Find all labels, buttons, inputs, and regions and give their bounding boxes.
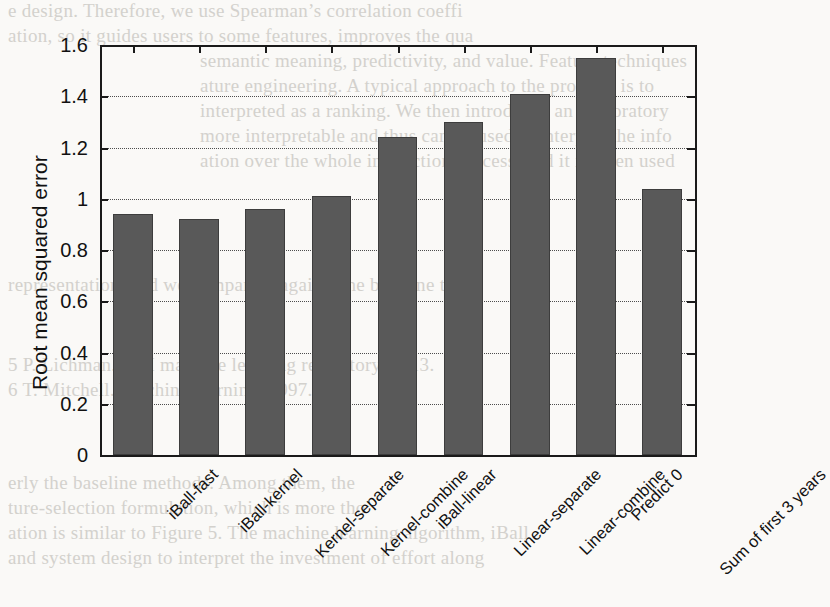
y-tick-mark	[100, 199, 108, 201]
x-tick-mark	[199, 45, 201, 53]
x-tick-mark	[133, 45, 135, 53]
y-tick-mark-right	[687, 353, 695, 355]
x-axis-line	[100, 455, 697, 457]
y-tick-mark-right	[687, 96, 695, 98]
bar[interactable]	[642, 189, 682, 456]
x-tick-mark	[464, 45, 466, 53]
y-tick-mark	[100, 250, 108, 252]
x-tick-mark	[398, 45, 400, 53]
bar[interactable]	[444, 122, 484, 455]
y-tick-mark-right	[687, 45, 695, 47]
y-tick-label: 0.6	[0, 290, 88, 313]
bar[interactable]	[179, 219, 219, 455]
x-tick-mark	[596, 45, 598, 53]
bar[interactable]	[510, 94, 550, 455]
y-tick-mark	[100, 45, 108, 47]
y-tick-label: 0	[0, 444, 88, 467]
y-tick-mark-right	[687, 404, 695, 406]
y-tick-label: 1.2	[0, 136, 88, 159]
y-tick-mark-right	[687, 250, 695, 252]
y-tick-mark	[100, 96, 108, 98]
x-tick-label: iBall-kernel	[235, 465, 306, 536]
y-tick-mark-right	[687, 199, 695, 201]
y-tick-mark-right	[687, 148, 695, 150]
bar[interactable]	[312, 196, 352, 455]
y-tick-mark	[100, 301, 108, 303]
y-tick-label: 0.8	[0, 239, 88, 262]
x-tick-label: iBall-fast	[164, 465, 222, 523]
x-tick-mark	[331, 45, 333, 53]
y-tick-label: 1.6	[0, 34, 88, 57]
y-tick-mark	[100, 148, 108, 150]
bar[interactable]	[378, 137, 418, 455]
y-tick-mark	[100, 404, 108, 406]
x-tick-mark	[530, 45, 532, 53]
y-tick-label: 1.4	[0, 85, 88, 108]
y-tick-label: 0.4	[0, 341, 88, 364]
y-tick-label: 0.2	[0, 392, 88, 415]
x-tick-mark	[265, 45, 267, 53]
plot-right-border	[695, 45, 697, 457]
bar[interactable]	[576, 58, 616, 455]
bar[interactable]	[245, 209, 285, 455]
y-tick-mark-right	[687, 301, 695, 303]
bar[interactable]	[113, 214, 153, 455]
y-tick-mark	[100, 353, 108, 355]
y-tick-label: 1	[0, 187, 88, 210]
x-tick-label: Sum of first 3 years	[716, 465, 830, 579]
x-tick-mark	[662, 45, 664, 53]
